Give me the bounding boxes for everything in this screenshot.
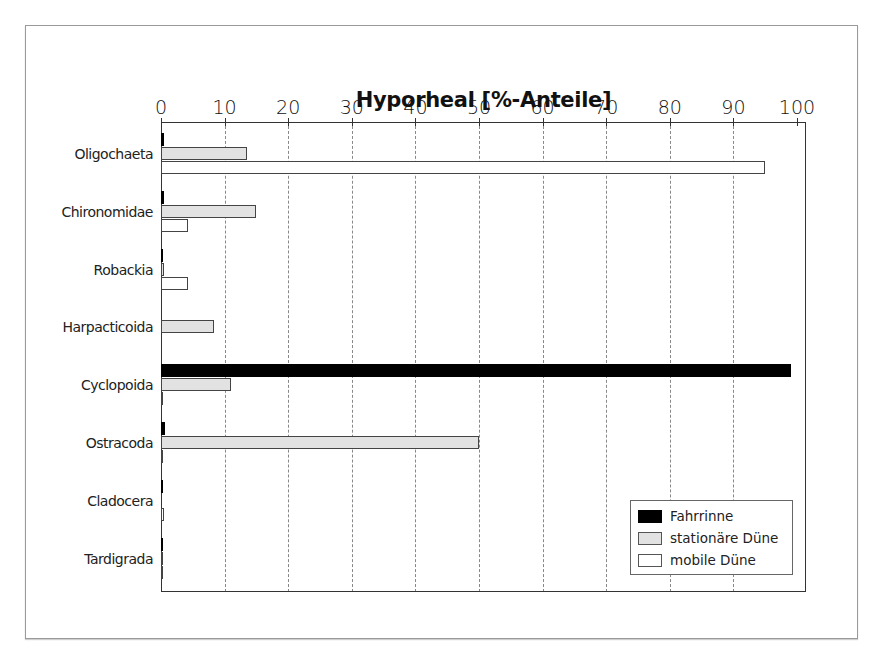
x-tick-label: 50 <box>467 96 491 118</box>
legend-item-stationaere-duene: stationäre Düne <box>638 528 778 548</box>
bar <box>161 219 188 232</box>
legend-swatch-gray <box>638 532 662 545</box>
x-tick-label: 60 <box>531 96 555 118</box>
x-tick-label: 80 <box>658 96 682 118</box>
bar <box>161 392 163 405</box>
x-tick-label: 10 <box>213 96 237 118</box>
x-tick-label: 40 <box>403 96 427 118</box>
x-tick-label: 30 <box>340 96 364 118</box>
legend: Fahrrinne stationäre Düne mobile Düne <box>630 500 793 575</box>
legend-item-mobile-duene: mobile Düne <box>638 550 756 570</box>
bar <box>161 566 163 579</box>
category-label: Oligochaeta <box>74 146 153 162</box>
bar <box>161 422 165 435</box>
bar <box>161 147 247 160</box>
bar <box>161 277 188 290</box>
legend-label: stationäre Düne <box>670 530 778 546</box>
category-label: Cladocera <box>87 493 153 509</box>
x-tick-label: 70 <box>594 96 618 118</box>
x-tick-label: 0 <box>155 96 167 118</box>
bar <box>161 191 164 204</box>
category-label: Tardigrada <box>84 551 153 567</box>
bar <box>161 249 163 262</box>
category-label: Cyclopoida <box>81 377 153 393</box>
category-label: Robackia <box>94 262 153 278</box>
x-tick-label: 90 <box>721 96 745 118</box>
bar <box>161 133 164 146</box>
x-tick-label: 20 <box>276 96 300 118</box>
bar <box>161 450 163 463</box>
bar <box>161 161 765 174</box>
bar <box>161 436 479 449</box>
clipped-caption <box>0 661 878 670</box>
bar <box>161 538 163 551</box>
bar <box>161 480 163 493</box>
legend-item-fahrrinne: Fahrrinne <box>638 506 733 526</box>
category-label: Harpacticoida <box>62 319 153 335</box>
bar <box>161 205 256 218</box>
bar <box>161 378 231 391</box>
bar <box>161 508 164 521</box>
bar <box>161 552 163 565</box>
category-label: Chironomidae <box>61 204 153 220</box>
x-tick-label: 100 <box>779 96 815 118</box>
bar <box>161 320 214 333</box>
legend-label: mobile Düne <box>670 552 756 568</box>
legend-label: Fahrrinne <box>670 508 733 524</box>
category-label: Ostracoda <box>86 435 153 451</box>
legend-swatch-black <box>638 510 662 523</box>
bar <box>161 263 164 276</box>
legend-swatch-white <box>638 554 662 567</box>
bar <box>161 364 791 377</box>
